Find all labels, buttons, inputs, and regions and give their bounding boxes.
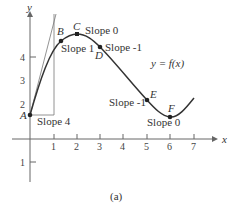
x-ticks: 1 2 3 4 5 6 7 [51, 134, 196, 152]
derivative-figure: x y 1 2 3 4 5 6 7 4 3 2 1 A B C D [0, 0, 235, 208]
figure-caption: (a) [110, 190, 123, 203]
x-axis-arrow-icon [212, 136, 218, 142]
slope-label-a: Slope 4 [37, 115, 71, 127]
point-d-label: D [94, 49, 103, 61]
slope-label-c: Slope 0 [85, 24, 119, 36]
slope-label-e: Slope -1 [109, 96, 146, 108]
point-f-label: F [167, 102, 175, 114]
x-tick-label: 5 [144, 141, 149, 152]
y-tick-label: 1 [20, 157, 25, 168]
y-tick-label: 4 [20, 52, 25, 63]
y-tick-label: 3 [20, 75, 25, 86]
x-tick-label: 7 [191, 141, 196, 152]
slope-label-d: Slope -1 [105, 41, 142, 53]
function-label: y = f(x) [150, 57, 184, 70]
point-c [75, 32, 79, 36]
slope-label-b: Slope 1 [61, 42, 94, 54]
x-tick-label: 2 [74, 141, 79, 152]
point-c-label: C [73, 20, 81, 32]
point-e-label: E [149, 88, 157, 100]
x-tick-label: 3 [97, 141, 102, 152]
y-axis-label: y [26, 1, 32, 13]
point-a-label: A [19, 109, 27, 121]
slope-label-f: Slope 0 [147, 116, 181, 128]
x-tick-label: 6 [167, 141, 172, 152]
point-b-label: B [57, 25, 64, 37]
x-tick-label: 1 [51, 141, 56, 152]
x-tick-label: 4 [120, 141, 125, 152]
point-a [28, 113, 33, 118]
x-axis-label: x [221, 133, 227, 145]
